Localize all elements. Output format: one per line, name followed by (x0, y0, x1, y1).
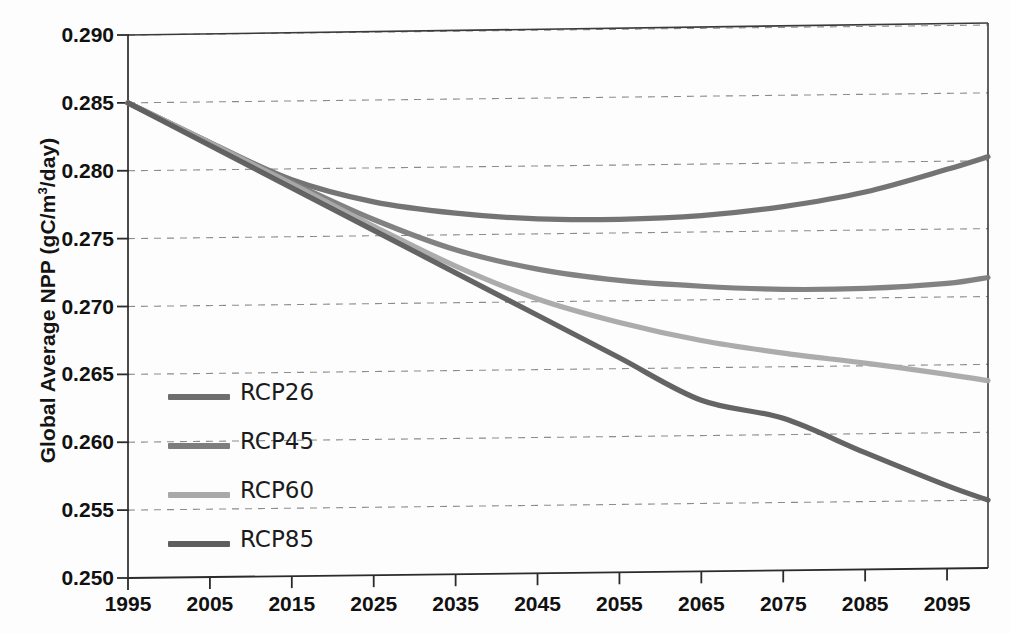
legend-swatch-icon (168, 541, 230, 547)
legend-label: RCP85 (240, 526, 314, 552)
legend-swatch-icon (168, 394, 230, 400)
grid-line (128, 93, 988, 103)
chart-legend: RCP26RCP45RCP60RCP85 (168, 379, 398, 575)
legend-item-rcp85[interactable]: RCP85 (168, 526, 398, 575)
grid-line (128, 364, 988, 374)
legend-item-rcp60[interactable]: RCP60 (168, 477, 398, 526)
legend-label: RCP45 (240, 428, 314, 454)
plot-area (0, 0, 1010, 633)
legend-item-rcp45[interactable]: RCP45 (168, 428, 398, 477)
legend-swatch-icon (168, 443, 230, 449)
legend-label: RCP60 (240, 477, 314, 503)
legend-swatch-icon (168, 492, 230, 498)
legend-item-rcp26[interactable]: RCP26 (168, 379, 398, 428)
legend-label: RCP26 (240, 379, 314, 405)
chart-page: Global Average NPP (gC/m3/day) 0.2500.25… (0, 0, 1010, 633)
series-line-rcp26 (128, 103, 988, 220)
grid-line (128, 229, 988, 239)
plot-top-rule (128, 23, 988, 35)
series-line-rcp45 (128, 103, 988, 290)
series-line-rcp60 (128, 103, 988, 381)
